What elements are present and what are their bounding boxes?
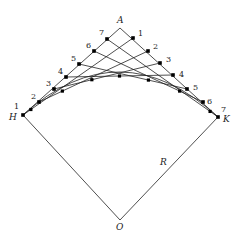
radius-oh — [23, 115, 120, 220]
left-number-label: 3 — [46, 79, 51, 88]
division-point — [105, 37, 109, 41]
tangent-point — [90, 78, 93, 81]
radius-ok — [120, 117, 218, 220]
label-h: H — [8, 112, 17, 122]
chord-line — [107, 39, 218, 117]
division-point — [77, 62, 81, 66]
right-number-label: 1 — [138, 29, 143, 38]
tangent-point — [147, 78, 150, 81]
envelope-diagram: AHKOR12345671234567 — [0, 0, 238, 231]
tangent-point — [118, 74, 121, 77]
tangent-point — [29, 108, 32, 111]
tangent-point — [208, 110, 211, 113]
right-number-label: 4 — [179, 70, 184, 79]
division-point — [146, 49, 150, 53]
right-number-label: 7 — [221, 105, 226, 114]
label-o: O — [116, 222, 124, 231]
division-point — [92, 49, 96, 53]
right-number-label: 3 — [166, 55, 171, 64]
division-point — [52, 87, 56, 91]
division-point — [216, 115, 220, 119]
left-number-label: 5 — [71, 54, 76, 63]
division-point — [131, 36, 135, 40]
left-number-label: 2 — [31, 92, 36, 101]
right-number-label: 2 — [153, 42, 158, 51]
division-point — [185, 87, 189, 91]
right-number-label: 6 — [207, 97, 212, 106]
radius-lines — [23, 115, 218, 220]
left-number-label: 7 — [99, 28, 104, 37]
label-k: K — [222, 114, 231, 124]
division-point — [21, 113, 25, 117]
right-number-label: 5 — [193, 83, 198, 92]
division-point — [201, 100, 205, 104]
label-a: A — [116, 15, 124, 25]
label-r: R — [159, 157, 167, 167]
division-point — [158, 61, 162, 65]
left-number-label: 6 — [86, 41, 91, 50]
division-point — [64, 75, 68, 79]
division-point — [171, 73, 175, 77]
left-number-label: 1 — [14, 102, 19, 111]
tangent-point — [178, 89, 181, 92]
left-number-label: 4 — [58, 67, 63, 76]
tangent-point — [61, 89, 64, 92]
division-point — [37, 100, 41, 104]
